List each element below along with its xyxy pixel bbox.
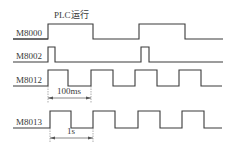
timing-diagram: PLC运行 M8000 M8002 M8012 M8013 100ms 1s (0, 0, 232, 160)
arrow-left-icon (50, 137, 55, 140)
signal-label-m8013: M8013 (16, 117, 43, 127)
waveform-m8000 (13, 24, 223, 39)
signal-label-m8002: M8002 (16, 51, 42, 61)
waveform-m8002 (13, 47, 223, 62)
plc-run-label: PLC运行 (54, 9, 89, 20)
m8012-period-label: 100ms (57, 86, 82, 96)
signal-label-m8000: M8000 (16, 28, 43, 38)
arrow-right-icon (86, 97, 91, 100)
waveform-m8013 (13, 111, 222, 128)
arrow-right-icon (88, 137, 93, 140)
m8013-period-label: 1s (67, 126, 76, 136)
m8012-period-dimension: 100ms (48, 86, 91, 103)
signal-label-m8012: M8012 (16, 75, 42, 85)
arrow-left-icon (48, 97, 53, 100)
waveform-m8012 (13, 70, 222, 86)
